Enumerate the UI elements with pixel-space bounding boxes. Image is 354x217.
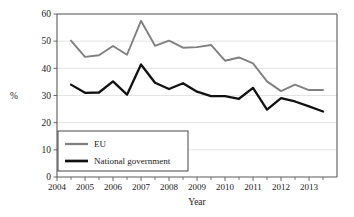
x-tick-label-2007: 2007 <box>132 182 151 192</box>
y-axis-title: % <box>10 91 18 101</box>
legend-label-eu: EU <box>94 139 106 149</box>
x-tick-label-2012: 2012 <box>272 182 290 192</box>
series-line-eu <box>71 21 323 91</box>
legend-label-national-government: National government <box>94 156 171 166</box>
y-tick-label-60: 60 <box>42 9 52 19</box>
x-axis-title: Year <box>188 197 206 207</box>
y-tick-label-10: 10 <box>42 145 52 155</box>
line-chart: 0102030405060%20042005200620072008200920… <box>0 0 354 217</box>
x-tick-label-2011: 2011 <box>244 182 262 192</box>
x-tick-label-2006: 2006 <box>104 182 123 192</box>
chart-container: 0102030405060%20042005200620072008200920… <box>0 0 354 217</box>
x-tick-label-2004: 2004 <box>48 182 67 192</box>
y-tick-label-30: 30 <box>42 91 52 101</box>
x-tick-label-2010: 2010 <box>216 182 235 192</box>
y-tick-label-0: 0 <box>46 172 51 182</box>
y-tick-label-50: 50 <box>42 36 52 46</box>
x-tick-label-2008: 2008 <box>160 182 179 192</box>
y-tick-label-40: 40 <box>42 64 52 74</box>
x-tick-label-2013: 2013 <box>300 182 319 192</box>
x-tick-label-2005: 2005 <box>76 182 95 192</box>
y-tick-label-20: 20 <box>42 118 52 128</box>
x-tick-label-2009: 2009 <box>188 182 207 192</box>
series-line-national-government <box>71 65 323 112</box>
